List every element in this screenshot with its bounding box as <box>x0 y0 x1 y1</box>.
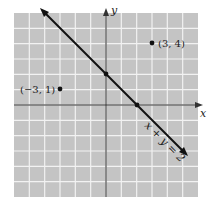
coordinate-plane: x y x + y = 2 (3, 4) (−3, 1) <box>0 0 212 213</box>
point-label: (−3, 1) <box>20 84 55 95</box>
x-axis-label: x <box>200 107 207 120</box>
y-axis-label: y <box>110 4 118 17</box>
point-label: (3, 4) <box>158 38 185 49</box>
point-dot <box>58 87 63 92</box>
y-intercept-dot <box>104 72 109 77</box>
y-axis-arrow-icon <box>103 8 109 16</box>
point-dot <box>150 41 155 46</box>
x-intercept-dot <box>135 103 140 108</box>
